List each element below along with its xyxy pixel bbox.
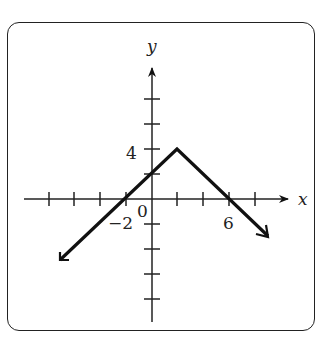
x-axis-label: x <box>298 189 308 209</box>
origin-label: 0 <box>137 201 148 221</box>
function-graph <box>60 149 268 260</box>
coordinate-plane: y x 4 0 −2 6 <box>0 0 323 339</box>
tick-label-neg2: −2 <box>108 213 133 233</box>
tick-label-4: 4 <box>126 143 137 163</box>
tick-label-6: 6 <box>223 213 234 233</box>
y-axis-label: y <box>146 36 157 56</box>
